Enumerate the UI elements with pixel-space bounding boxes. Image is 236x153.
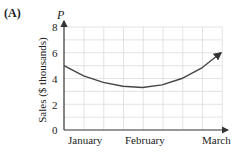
ytick-0: 0 — [52, 124, 58, 136]
xtick-january: January — [68, 134, 102, 146]
xtick-february: February — [125, 134, 165, 146]
ytick-6: 6 — [52, 47, 58, 59]
ytick-2: 2 — [52, 99, 58, 111]
xtick-march: March — [202, 134, 231, 146]
ytick-8: 8 — [52, 21, 58, 33]
y-axis-symbol: P — [57, 8, 64, 23]
ytick-4: 4 — [52, 73, 58, 85]
sales-curve — [64, 53, 221, 88]
y-axis-label: Sales ($ thousands) — [36, 37, 48, 123]
